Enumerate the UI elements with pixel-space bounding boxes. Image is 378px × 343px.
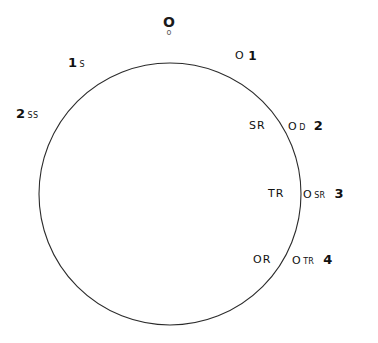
symbol-o-1-superscript: 1 xyxy=(248,50,257,62)
symbol-o-sr-subscript: SR xyxy=(314,192,325,200)
top-symbol-subscript: o xyxy=(152,28,186,37)
index-1: 1 xyxy=(68,56,78,69)
symbol-o-sr: O xyxy=(303,189,312,200)
circle-diagram-figure: O o 1 S 2 SS O 1 SR O D 2 TR O SR 3 OR O… xyxy=(0,0,378,343)
index-4: 4 xyxy=(323,253,333,266)
index-2: 2 xyxy=(16,107,26,120)
label-group-osr-3: O SR 3 xyxy=(303,187,344,200)
interior-label-sr: SR xyxy=(249,120,266,131)
index-3: 3 xyxy=(334,187,344,200)
symbol-o-d: O xyxy=(288,121,297,132)
symbol-o-d-subscript: D xyxy=(299,124,305,132)
index-1-subscript: S xyxy=(80,61,85,69)
symbol-o-tr: O xyxy=(292,255,301,266)
index-2-subscript: SS xyxy=(28,112,39,120)
symbol-o-tr-subscript: TR xyxy=(303,258,314,266)
symbol-o-1: O xyxy=(235,50,244,61)
circle-outline xyxy=(39,63,301,325)
label-group-1-s: 1 S xyxy=(68,56,85,69)
label-group-2-ss: 2 SS xyxy=(16,107,38,120)
diagram-circle xyxy=(0,0,378,343)
interior-label-or: OR xyxy=(253,254,271,265)
label-group-otr-4: O TR 4 xyxy=(292,253,333,266)
index-2-right: 2 xyxy=(314,119,324,132)
label-group-o-sup1: O 1 xyxy=(235,50,257,62)
label-group-od-2: O D 2 xyxy=(288,119,323,132)
top-symbol-group: O o xyxy=(152,14,186,37)
interior-label-tr: TR xyxy=(268,188,284,199)
